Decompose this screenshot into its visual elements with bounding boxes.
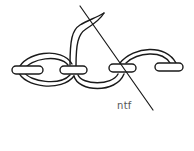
stitch-diagram <box>0 0 194 151</box>
right-arch <box>120 49 176 63</box>
diagram-label: ntf <box>117 100 132 111</box>
stitch-bar-4 <box>155 63 183 71</box>
stitch-bar-2 <box>60 66 87 74</box>
stitch-bar-3 <box>109 64 136 72</box>
middle-dip <box>74 74 124 89</box>
rising-thread <box>70 13 104 66</box>
needle-line <box>80 6 153 110</box>
stitch-bar-1 <box>12 66 43 74</box>
